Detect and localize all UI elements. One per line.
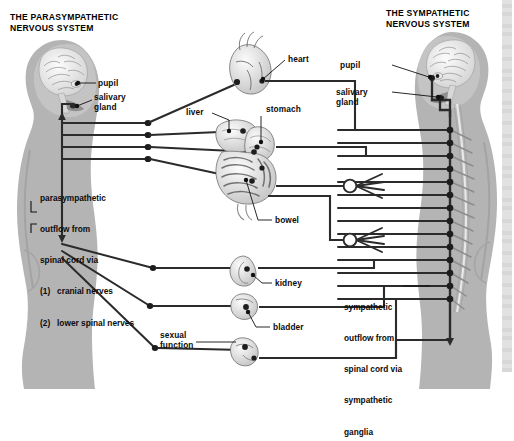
organ-abdominal-mass [216,120,276,220]
sympathetic-caption: sympathetic outflow from spinal cord via… [344,281,402,441]
right-title: THE SYMPATHETIC NERVOUS SYSTEM [386,8,470,30]
parasympathetic-caption: parasympathetic outflow from spinal cord… [40,172,134,349]
organ-bladder [231,294,258,320]
left-sacral-nodes [147,265,158,351]
symcap-line4: sympathetic [344,395,402,405]
left-title: THE PARASYMPATHETIC NERVOUS SYSTEM [10,12,118,34]
symcap-line2: outflow from [344,333,402,343]
paracap-line1: parasympathetic [40,193,134,203]
organ-heart [230,32,271,94]
left-ganglion-nodes [145,120,152,162]
paracap-line3: spinal cord via [40,255,134,265]
label-kidney: kidney [275,278,302,288]
label-bowel: bowel [275,215,299,225]
label-stomach: stomach [266,104,301,114]
label-left-pupil: pupil [98,78,118,88]
label-right-salivary-gland: salivary gland [336,87,368,107]
label-heart: heart [288,54,309,64]
organ-kidney [230,256,256,286]
symcap-line1: sympathetic [344,302,402,312]
label-bladder: bladder [273,322,304,332]
adjacent-page-text-column [500,0,514,389]
paracap-item1: (1) cranial nerves [40,286,134,296]
symcap-line3: spinal cord via [344,364,402,374]
label-right-pupil: pupil [340,60,360,70]
collateral-ganglion-upper [344,180,357,193]
label-liver: liver [186,107,204,117]
paracap-item2: (2) lower spinal nerves [40,318,134,328]
label-sexual-function: sexual function [160,330,194,350]
symcap-line5: ganglia [344,427,402,437]
label-left-salivary-gland: salivary gland [94,92,126,112]
collateral-ganglion-lower [344,234,357,247]
paracap-line2: outflow from [40,224,134,234]
